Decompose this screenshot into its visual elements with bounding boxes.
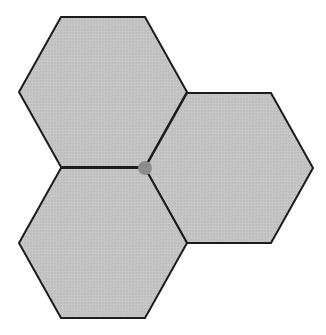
hexagon-diagram (0, 0, 326, 335)
diagram-canvas (0, 0, 326, 335)
shared-vertex-dot (138, 161, 152, 175)
